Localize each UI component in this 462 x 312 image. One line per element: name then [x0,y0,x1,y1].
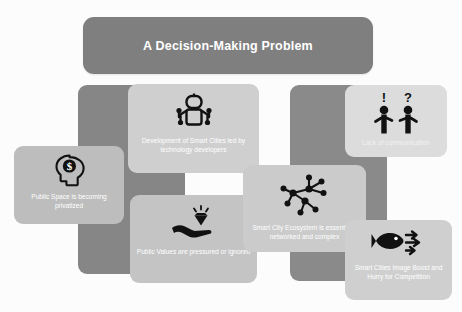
card-lack-of-communication[interactable]: ! ? Lack of communication [345,85,447,157]
robot-icon [128,92,259,130]
card-development[interactable]: Development of Smart Cities led by techn… [128,84,259,173]
title-banner: A Decision-Making Problem [83,17,373,74]
card-public-space[interactable]: $ Public Space is becoming privatized [14,146,124,224]
card-label: Public Values are pressured or ignored [130,247,257,256]
card-label: Development of Smart Cities led by techn… [128,136,259,154]
diagram-canvas: A Decision-Making Problem $ Public Space… [0,0,462,312]
card-competition[interactable]: Smart Cities Image Boost and Hurry for C… [345,220,452,300]
svg-text:!: ! [382,91,386,105]
card-label: Public Space is becoming privatized [14,192,124,210]
network-nodes-icon [243,173,366,219]
svg-text:$: $ [67,160,73,172]
hand-diamond-icon [130,204,257,240]
page-title: A Decision-Making Problem [143,39,313,53]
svg-text:?: ? [404,91,412,105]
card-label: Smart Cities Image Boost and Hurry for C… [345,263,452,281]
head-dollar-icon: $ [14,153,124,187]
two-people-exclamation-question-icon: ! ? [345,91,447,135]
card-label: Lack of communication [345,138,447,147]
fish-arrows-icon [345,226,452,260]
card-public-values[interactable]: Public Values are pressured or ignored [130,195,257,283]
